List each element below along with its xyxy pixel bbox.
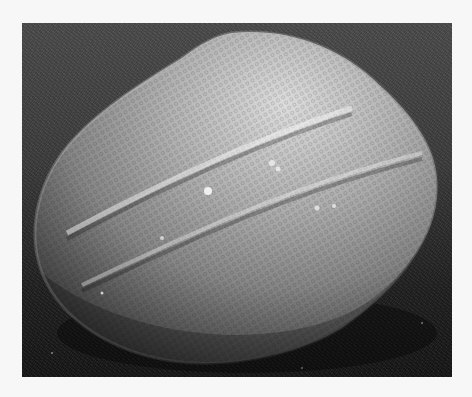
micrograph-frame: [22, 23, 452, 377]
pollen-grain-illustration: [22, 23, 452, 377]
